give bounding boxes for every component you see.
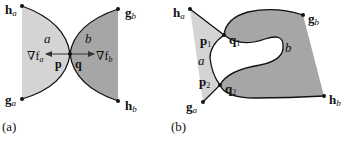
vertex-g-a-dot (20, 97, 24, 101)
vertex-h-a-dot (20, 4, 24, 8)
label-q: q (75, 57, 82, 71)
vertex-g-b-dot-b (301, 13, 305, 17)
label-g-a-b: ga (186, 99, 198, 115)
vertex-h-b-dot (116, 99, 120, 103)
label-region-a: a (44, 31, 51, 46)
label-h-b-b: hb (329, 92, 341, 108)
caption-a: (a) (2, 119, 16, 134)
panel-a: ha ga gb hb a b ∇fa ∇fb p q (a) (2, 2, 137, 134)
vertex-g-b-dot (116, 7, 120, 11)
panel-b: ha ga gb hb p1 q1 p2 q2 a b (b) (171, 5, 341, 134)
label-g-b-b: gb (308, 11, 320, 27)
label-g-a: ga (5, 92, 17, 108)
vertex-h-b-dot-b (322, 94, 326, 98)
label-h-a: ha (5, 2, 17, 18)
vertex-g-a-dot-b (201, 100, 205, 104)
contact-point-1-dot (222, 33, 226, 37)
vertex-h-a-dot-b (188, 7, 192, 11)
label-p: p (55, 57, 62, 71)
label-g-b: gb (125, 5, 137, 21)
label-h-b: hb (125, 98, 137, 114)
label-h-a-b: ha (173, 5, 185, 21)
caption-b: (b) (171, 119, 186, 134)
figure-canvas: ha ga gb hb a b ∇fa ∇fb p q (a) (0, 0, 346, 145)
label-region-a-b: a (198, 53, 205, 68)
contact-point-2-dot (218, 83, 222, 87)
label-region-b-b: b (285, 40, 292, 55)
label-region-b: b (85, 31, 92, 46)
contact-point-dot (68, 52, 72, 56)
